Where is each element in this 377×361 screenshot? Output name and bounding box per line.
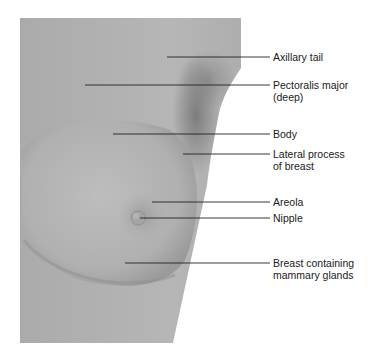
label-breast-mammary-glands: Breast containing mammary glands — [273, 257, 354, 281]
label-areola: Areola — [273, 196, 303, 208]
label-body: Body — [273, 128, 297, 140]
label-axillary-tail: Axillary tail — [273, 51, 323, 63]
label-nipple: Nipple — [273, 212, 303, 224]
label-lateral-process: Lateral process of breast — [273, 148, 345, 172]
label-pectoralis-major: Pectoralis major (deep) — [273, 79, 348, 103]
